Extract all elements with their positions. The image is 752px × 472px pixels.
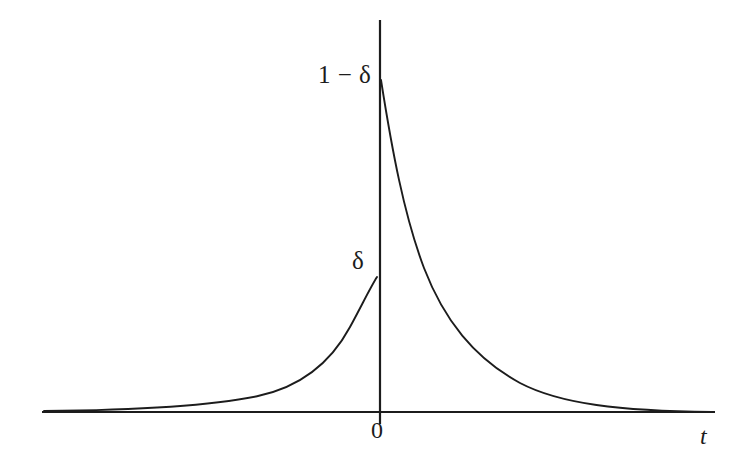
origin-tick-label: 0: [371, 418, 383, 442]
x-axis-variable-label: t: [700, 424, 707, 448]
plot-canvas: [0, 0, 752, 472]
figure-container: 1 − δ δ 0 t: [0, 0, 752, 472]
curve-right-branch: [381, 80, 712, 412]
curve-left-branch: [44, 277, 377, 411]
peak-high-label: 1 − δ: [318, 62, 371, 87]
peak-low-label: δ: [352, 248, 364, 273]
